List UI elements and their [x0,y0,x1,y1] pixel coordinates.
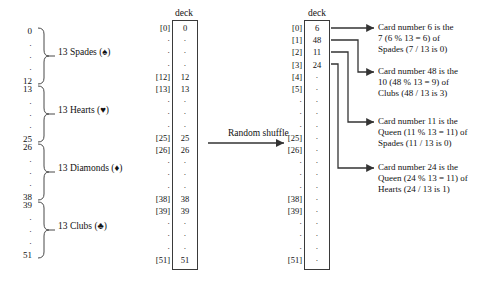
annotation-line: Queen (11 % 13 = 11) of [378,127,467,138]
deck-shuffle-diagram: 0 · · · 12 13 Spades (♠) 13 · · · 25 13 … [0,0,495,283]
annotation-line: 10 (48 % 13 = 9) of [378,77,458,88]
annotation-line: Hearts (24 / 13 is 1) [378,184,468,195]
annotation-line: Card number 24 is the [378,162,468,173]
annotation-line: Card number 11 is the [378,116,467,127]
annotation-card-48: Card number 48 is the 10 (48 % 13 = 9) o… [378,66,458,100]
annotation-card-6: Card number 6 is the 7 (6 % 13 = 6) of S… [378,22,454,56]
annotation-line: 7 (6 % 13 = 6) of [378,33,454,44]
annotation-line: Card number 6 is the [378,22,454,33]
annotation-line: Spades (11 / 13 is 0) [378,138,467,149]
annotation-line: Card number 48 is the [378,66,458,77]
annotation-card-24: Card number 24 is the Queen (24 % 13 = 1… [378,162,468,196]
annotation-card-11: Card number 11 is the Queen (11 % 13 = 1… [378,116,467,150]
annotation-line: Queen (24 % 13 = 11) of [378,173,468,184]
annotation-line: Clubs (48 / 13 is 3) [378,88,458,99]
annotation-line: Spades (7 / 13 is 0) [378,44,454,55]
